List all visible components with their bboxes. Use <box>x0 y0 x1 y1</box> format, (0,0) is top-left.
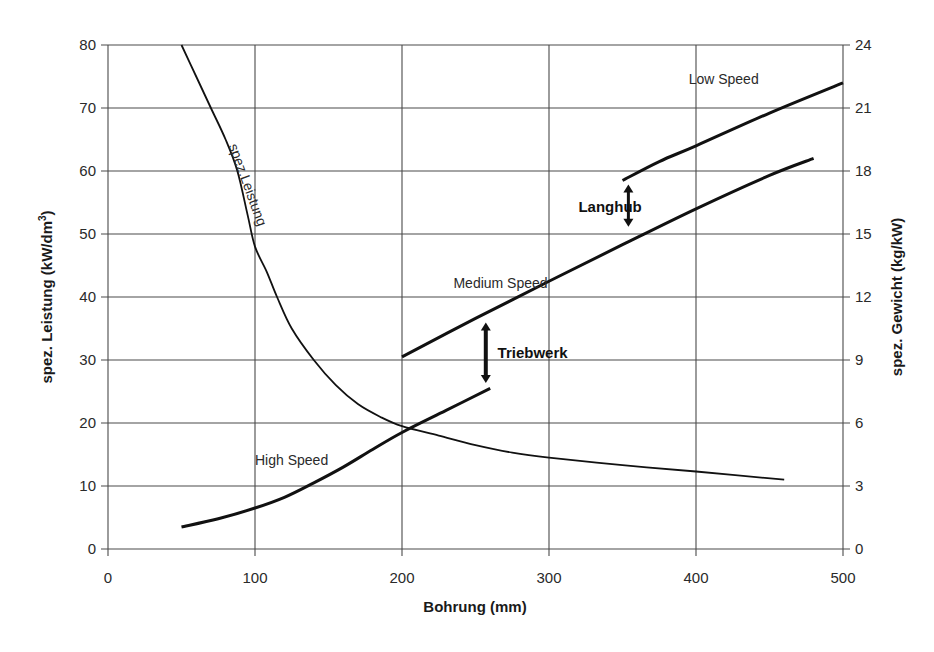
x-tick-label: 0 <box>104 569 112 586</box>
y2-tick-label: 6 <box>855 414 863 431</box>
label-medium-speed: Medium Speed <box>453 275 547 291</box>
y2-tick-label: 15 <box>855 225 872 242</box>
x-axis-title: Bohrung (mm) <box>423 598 526 615</box>
y2-tick-label: 24 <box>855 36 872 53</box>
y-tick-label: 10 <box>79 477 96 494</box>
y-tick-label: 80 <box>79 36 96 53</box>
grid-lines <box>101 45 850 556</box>
y2-tick-label: 12 <box>855 288 872 305</box>
x-tick-label: 100 <box>242 569 267 586</box>
y-tick-label: 60 <box>79 162 96 179</box>
x-tick-label: 400 <box>683 569 708 586</box>
y2-tick-label: 9 <box>855 351 863 368</box>
x-tick-label: 300 <box>536 569 561 586</box>
annotations: spez.LeistungHigh SpeedMedium SpeedLow S… <box>226 71 759 468</box>
y2-tick-label: 3 <box>855 477 863 494</box>
y-axis-right-title: spez. Gewicht (kg/kW) <box>888 218 905 376</box>
x-tick-label: 500 <box>830 569 855 586</box>
chart: 0100200300400500 01020304050607080 03691… <box>0 0 934 652</box>
label-triebwerk: Triebwerk <box>498 344 569 361</box>
double-arrow-icon <box>481 322 491 383</box>
y-tick-label: 20 <box>79 414 96 431</box>
label-langhub: Langhub <box>578 198 641 215</box>
curve-low-speed <box>623 83 844 181</box>
y-axis-left-ticks: 01020304050607080 <box>79 36 96 557</box>
label-high-speed: High Speed <box>255 452 328 468</box>
label-low-speed: Low Speed <box>689 71 759 87</box>
y-tick-label: 30 <box>79 351 96 368</box>
curve-medium-speed <box>402 158 814 356</box>
y2-tick-label: 21 <box>855 99 872 116</box>
y-tick-label: 0 <box>88 540 96 557</box>
x-tick-label: 200 <box>389 569 414 586</box>
y2-tick-label: 18 <box>855 162 872 179</box>
x-axis-ticks: 0100200300400500 <box>104 569 856 586</box>
y-tick-label: 50 <box>79 225 96 242</box>
y-tick-label: 70 <box>79 99 96 116</box>
y-axis-right-ticks: 03691215182124 <box>855 36 872 557</box>
y-tick-label: 40 <box>79 288 96 305</box>
y2-tick-label: 0 <box>855 540 863 557</box>
y-axis-left-title: spez. Leistung (kW/dm3) <box>37 210 55 383</box>
curve-high-speed <box>182 388 491 527</box>
curve-spez-leistung <box>182 45 785 480</box>
